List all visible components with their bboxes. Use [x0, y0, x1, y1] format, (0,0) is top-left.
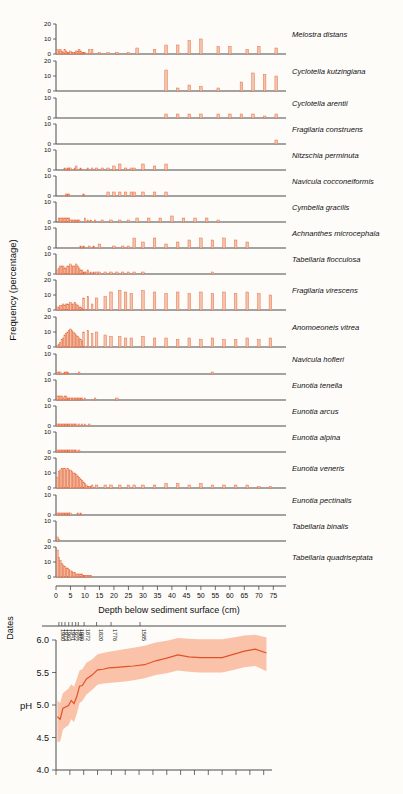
- frequency-bar: [83, 194, 85, 196]
- frequency-bar: [142, 164, 145, 170]
- depth-tick-label: 45: [182, 592, 190, 599]
- frequency-bar: [171, 216, 174, 222]
- frequency-bar: [205, 218, 208, 222]
- frequency-bar: [104, 485, 107, 488]
- frequency-bar: [234, 294, 237, 311]
- species-panel: 010Tabellaria binalis: [44, 517, 348, 544]
- frequency-bar: [107, 168, 110, 170]
- frequency-bar: [67, 372, 69, 374]
- frequency-bar: [165, 45, 168, 54]
- frequency-bar: [153, 166, 156, 170]
- frequency-bar: [113, 192, 116, 196]
- depth-tick-label: 30: [139, 592, 147, 599]
- species-panel: 010Tabellaria flocculosa: [44, 250, 360, 277]
- frequency-bar: [153, 192, 156, 196]
- frequency-bar: [121, 272, 124, 274]
- frequency-bar: [104, 297, 107, 311]
- frequency-bar: [165, 114, 168, 118]
- frequency-bar: [95, 272, 98, 274]
- depth-tick-label: 15: [96, 592, 104, 599]
- frequency-bar: [91, 50, 93, 55]
- frequency-bar: [94, 220, 96, 222]
- y-tick-label: 10: [44, 376, 51, 383]
- frequency-bar: [269, 295, 272, 310]
- y-tick-label: 10: [44, 224, 51, 231]
- frequency-bar: [94, 398, 96, 400]
- frequency-bar: [98, 272, 101, 274]
- y-tick-label: 20: [44, 57, 51, 64]
- frequency-bar: [95, 168, 98, 170]
- frequency-bar: [127, 53, 130, 55]
- frequency-bar: [211, 338, 214, 347]
- frequency-bar: [91, 168, 93, 170]
- frequency-bar: [223, 340, 226, 348]
- frequency-bar: [176, 114, 179, 118]
- frequency-bar: [127, 220, 130, 222]
- frequency-bar: [89, 246, 91, 248]
- depth-tick-label: 10: [81, 592, 89, 599]
- frequency-bar: [153, 485, 156, 488]
- taxon-label: Nitzschia perminuta: [292, 151, 359, 160]
- species-panel: 01020Melostra distans: [44, 20, 347, 57]
- frequency-bar: [113, 246, 116, 248]
- frequency-bar: [211, 240, 214, 248]
- taxon-label: Eunotia arcus: [292, 407, 339, 416]
- frequency-bar: [217, 88, 220, 91]
- frequency-bar: [80, 246, 82, 248]
- frequency-bar: [76, 450, 78, 452]
- frequency-bar: [133, 485, 136, 488]
- frequency-bar: [142, 272, 145, 274]
- frequency-bar: [188, 240, 191, 248]
- taxon-label: Tabellaria flocculosa: [292, 255, 361, 264]
- frequency-bar: [81, 398, 83, 400]
- x-axis-title: Depth below sediment surface (cm): [98, 605, 240, 615]
- frequency-bar: [98, 53, 101, 55]
- frequency-bar: [240, 82, 243, 91]
- frequency-bar: [165, 294, 168, 311]
- frequency-bar: [107, 53, 110, 55]
- frequency-bar: [101, 168, 104, 170]
- frequency-bar: [110, 337, 113, 348]
- taxon-label: Cyclotella kutzingiana: [292, 67, 365, 76]
- taxon-label: Eunotia tenella: [292, 381, 342, 390]
- frequency-bar: [252, 73, 255, 91]
- frequency-bar: [188, 114, 191, 118]
- depth-tick-label: 60: [226, 592, 234, 599]
- y-tick-label: 10: [44, 94, 51, 101]
- frequency-bar: [84, 218, 86, 222]
- frequency-bar: [87, 220, 89, 222]
- y-tick-label: 10: [44, 491, 51, 498]
- frequency-bar: [76, 166, 78, 170]
- y-tick-label: 10: [44, 402, 51, 409]
- frequency-bar: [165, 338, 168, 347]
- frequency-bar: [127, 485, 130, 488]
- frequency-bar: [116, 53, 119, 55]
- species-panel: 01020Anomoeoneis vitrea: [44, 313, 359, 350]
- frequency-bar: [118, 337, 121, 348]
- frequency-bar: [229, 47, 232, 55]
- frequency-bar: [118, 485, 121, 488]
- frequency-bar: [95, 298, 98, 310]
- frequency-bar: [84, 398, 86, 400]
- y-tick-label: 10: [44, 120, 51, 127]
- ph-reconstruction-chart: 4.04.55.05.56.0: [36, 635, 272, 775]
- frequency-bar: [136, 48, 139, 54]
- frequency-bar: [133, 192, 136, 196]
- frequency-bar: [104, 272, 107, 274]
- frequency-bar: [194, 218, 197, 222]
- frequency-bar: [275, 114, 278, 118]
- frequency-bar: [153, 238, 156, 248]
- frequency-bar: [133, 272, 136, 274]
- depth-tick-label: 40: [168, 592, 176, 599]
- frequency-bar: [83, 246, 85, 248]
- frequency-bar: [165, 484, 168, 489]
- frequency-bar: [104, 335, 107, 347]
- frequency-bar: [211, 272, 214, 274]
- frequency-bar: [91, 304, 93, 310]
- date-tick-label: 1820: [98, 629, 104, 641]
- species-panel: 01020Fragilaria virescens: [44, 276, 358, 313]
- frequency-bar: [80, 513, 82, 515]
- species-panel: 010Fragilaria construens: [44, 120, 363, 147]
- frequency-bar: [107, 192, 110, 196]
- y-tick-label: 10: [44, 146, 51, 153]
